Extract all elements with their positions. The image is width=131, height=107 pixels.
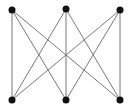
graph-node-a3 bbox=[117, 7, 124, 14]
bipartite-graph-diagram bbox=[0, 0, 131, 107]
graph-node-a1 bbox=[9, 7, 16, 14]
graph-node-b1 bbox=[9, 97, 16, 104]
graph-node-a2 bbox=[63, 6, 70, 13]
graph-node-b3 bbox=[117, 97, 124, 104]
graph-edges bbox=[12, 9, 120, 100]
graph-node-b2 bbox=[63, 97, 70, 104]
